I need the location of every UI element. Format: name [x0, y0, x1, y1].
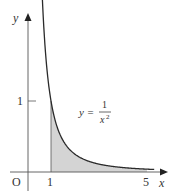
y-axis-label: y — [12, 11, 19, 25]
x-axis-arrow-icon — [160, 169, 168, 176]
origin-label: O — [12, 175, 21, 189]
function-label-exponent: 2 — [106, 113, 110, 121]
function-label-numerator: 1 — [102, 99, 107, 110]
function-label-denominator: x — [99, 114, 105, 125]
x-tick-label-1: 1 — [47, 175, 53, 189]
x-tick-label-5: 5 — [143, 175, 149, 189]
y-axis-arrow-icon — [25, 13, 32, 21]
function-label-lhs: y = — [78, 106, 94, 118]
x-axis-label: x — [158, 176, 165, 190]
y-tick-label-1: 1 — [17, 94, 23, 108]
chart-canvas: y x O 1 5 1 y = 1 x 2 — [0, 0, 173, 193]
